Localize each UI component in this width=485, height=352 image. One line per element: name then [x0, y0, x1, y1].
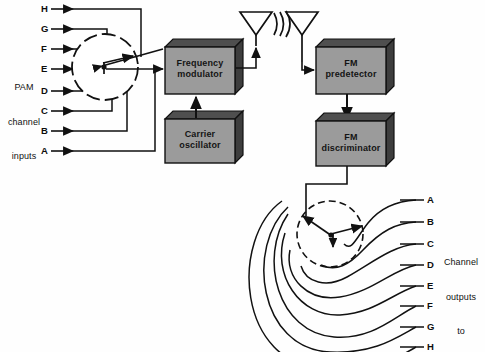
input-label-d: D — [41, 85, 48, 96]
channel-output-curves — [249, 200, 416, 352]
transmit-commutator — [72, 34, 163, 100]
output-label-h: H — [427, 341, 434, 352]
outputs-label-line-3: to — [437, 326, 485, 338]
output-label-b: B — [427, 216, 434, 227]
pam-label-line-1: PAM — [2, 82, 46, 94]
discriminator-to-distributor-wire — [306, 166, 347, 216]
input-label-f: F — [41, 43, 47, 54]
pam-input-arrows — [51, 9, 73, 151]
outputs-label-line-1: Channel — [437, 257, 485, 269]
diagram-svg — [0, 0, 485, 352]
outputs-label-line-2: outputs — [437, 292, 485, 304]
input-label-b: B — [41, 125, 48, 136]
channel-output-leaders — [400, 200, 424, 347]
carrier-oscillator-block[interactable] — [165, 111, 243, 163]
pam-inputs-group-label: PAM channel inputs — [2, 59, 46, 186]
receive-distributor-hub — [328, 232, 333, 237]
input-label-a: A — [41, 145, 48, 156]
output-label-d: D — [427, 259, 434, 270]
input-label-c: C — [41, 105, 48, 116]
pam-label-line-2: channel — [2, 117, 46, 129]
input-label-h: H — [41, 3, 48, 14]
antenna-to-predetector-wire — [302, 62, 314, 70]
output-label-e: E — [427, 280, 433, 291]
receive-distributor-wiper — [303, 216, 362, 247]
transmit-antenna — [240, 12, 272, 46]
output-label-g: G — [427, 321, 435, 332]
transmit-commutator-hub — [101, 64, 106, 69]
channel-outputs-group-label: Channel outputs to envelope detectors — [437, 234, 485, 352]
receive-antenna — [286, 12, 318, 62]
fm-predetector-block[interactable] — [316, 39, 394, 94]
input-label-e: E — [41, 63, 47, 74]
diagram-canvas: PAM channel inputs H G F E D C B A Frequ… — [0, 0, 485, 352]
receive-distributor — [297, 201, 363, 267]
input-label-g: G — [41, 23, 49, 34]
pam-label-line-3: inputs — [2, 151, 46, 163]
output-label-f: F — [427, 300, 433, 311]
fm-discriminator-block[interactable] — [316, 113, 394, 166]
output-label-a: A — [427, 194, 434, 205]
output-label-c: C — [427, 238, 434, 249]
frequency-modulator-block[interactable] — [165, 39, 243, 94]
